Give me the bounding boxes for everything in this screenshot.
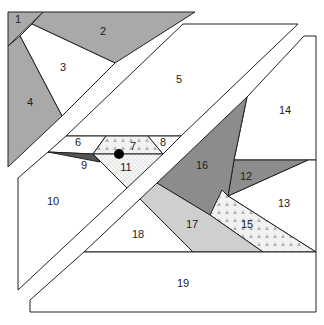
label-15: 15 <box>241 218 253 230</box>
label-12: 12 <box>240 170 252 182</box>
label-18: 18 <box>132 228 144 240</box>
label-7: 7 <box>130 140 136 152</box>
quilt-pattern-diagram: 1 2 3 4 5 6 7 8 9 10 11 12 13 14 15 16 1… <box>0 0 324 325</box>
label-19: 19 <box>177 277 189 289</box>
label-13: 13 <box>278 197 290 209</box>
label-3: 3 <box>60 61 66 73</box>
label-8: 8 <box>160 136 166 148</box>
piece-19 <box>30 252 316 312</box>
label-5: 5 <box>176 73 182 85</box>
label-16: 16 <box>196 159 208 171</box>
label-14: 14 <box>279 104 291 116</box>
label-11: 11 <box>120 161 131 173</box>
label-6: 6 <box>75 136 81 148</box>
eye-dot <box>114 149 124 159</box>
label-17: 17 <box>186 218 198 230</box>
label-2: 2 <box>100 25 106 37</box>
label-10: 10 <box>47 195 59 207</box>
label-9: 9 <box>81 159 87 171</box>
label-4: 4 <box>27 96 33 108</box>
label-1: 1 <box>15 13 21 25</box>
